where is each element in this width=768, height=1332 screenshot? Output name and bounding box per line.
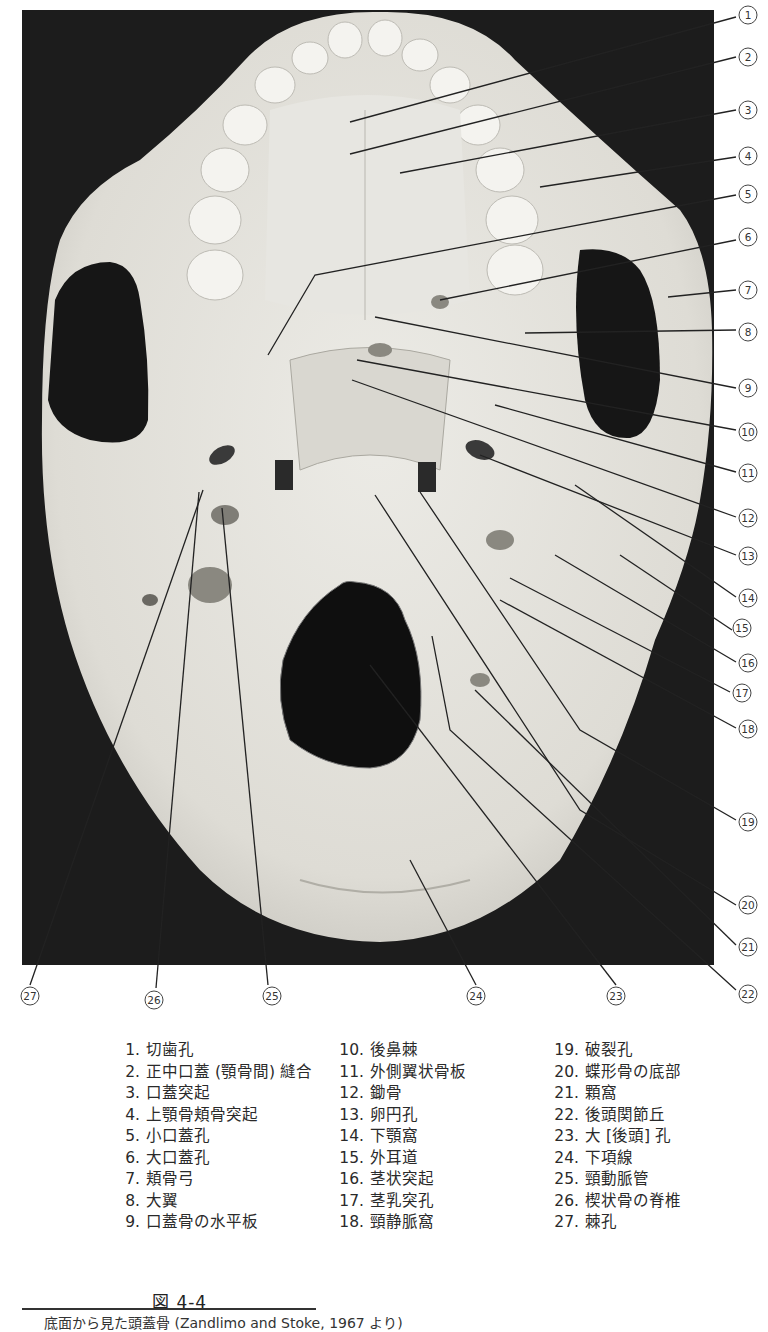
callout-numbers: 1 2 3 4 5 6 7 8 9 10 11 12 13 14 15 16 1… bbox=[0, 0, 768, 1010]
svg-text:11: 11 bbox=[741, 467, 754, 479]
legend-item: 15.外耳道 bbox=[328, 1148, 466, 1170]
svg-text:13: 13 bbox=[741, 550, 754, 562]
svg-text:20: 20 bbox=[741, 899, 754, 911]
legend-column-2: 10.後鼻棘 11.外側翼状骨板 12.鋤骨 13.卵円孔 14.下顎窩 15.… bbox=[328, 1040, 466, 1234]
legend-item: 10.後鼻棘 bbox=[328, 1040, 466, 1062]
svg-text:18: 18 bbox=[741, 723, 754, 735]
svg-text:3: 3 bbox=[745, 104, 752, 116]
callout-12: 12 bbox=[739, 509, 757, 527]
svg-text:23: 23 bbox=[609, 990, 622, 1002]
divider bbox=[22, 1308, 316, 1310]
callout-7: 7 bbox=[739, 281, 757, 299]
legend-item: 14.下顎窩 bbox=[328, 1126, 466, 1148]
svg-text:27: 27 bbox=[23, 990, 36, 1002]
legend-item: 19.破裂孔 bbox=[553, 1040, 681, 1062]
legend-item: 8.大翼 bbox=[118, 1191, 312, 1213]
legend-item: 16.茎状突起 bbox=[328, 1169, 466, 1191]
svg-text:19: 19 bbox=[741, 816, 754, 828]
legend-item: 23.大 [後頭] 孔 bbox=[553, 1126, 681, 1148]
svg-text:12: 12 bbox=[741, 512, 754, 524]
callout-4: 4 bbox=[739, 147, 757, 165]
legend-item: 9.口蓋骨の水平板 bbox=[118, 1212, 312, 1234]
callout-6: 6 bbox=[739, 228, 757, 246]
callout-22: 22 bbox=[739, 985, 757, 1003]
svg-text:16: 16 bbox=[741, 657, 755, 669]
legend-item: 18.頸静脈窩 bbox=[328, 1212, 466, 1234]
legend-item: 24.下項線 bbox=[553, 1148, 681, 1170]
callout-markers: 1 2 3 4 5 6 7 8 9 10 11 12 13 14 15 16 1… bbox=[21, 6, 757, 1009]
callout-5: 5 bbox=[739, 185, 757, 203]
svg-text:24: 24 bbox=[469, 990, 483, 1002]
legend-item: 3.口蓋突起 bbox=[118, 1083, 312, 1105]
svg-text:5: 5 bbox=[745, 188, 752, 200]
callout-11: 11 bbox=[739, 464, 757, 482]
legend-item: 7.頬骨弓 bbox=[118, 1169, 312, 1191]
svg-text:7: 7 bbox=[745, 284, 752, 296]
legend-item: 11.外側翼状骨板 bbox=[328, 1062, 466, 1084]
legend-item: 1.切歯孔 bbox=[118, 1040, 312, 1062]
legend-item: 17.茎乳突孔 bbox=[328, 1191, 466, 1213]
svg-text:14: 14 bbox=[741, 592, 755, 604]
callout-24: 24 bbox=[467, 987, 485, 1005]
legend-item: 25.頸動脈管 bbox=[553, 1169, 681, 1191]
legend-item: 26.楔状骨の脊椎 bbox=[553, 1191, 681, 1213]
callout-23: 23 bbox=[607, 987, 625, 1005]
callout-8: 8 bbox=[739, 323, 757, 341]
callout-18: 18 bbox=[739, 720, 757, 738]
svg-text:26: 26 bbox=[147, 994, 161, 1006]
legend-item: 2.正中口蓋 (顎骨間) 縫合 bbox=[118, 1062, 312, 1084]
callout-27: 27 bbox=[21, 987, 39, 1005]
callout-14: 14 bbox=[739, 589, 757, 607]
legend-item: 27.棘孔 bbox=[553, 1212, 681, 1234]
legend-column-3: 19.破裂孔 20.蝶形骨の底部 21.顆窩 22.後頭関節丘 23.大 [後頭… bbox=[553, 1040, 681, 1234]
callout-21: 21 bbox=[739, 938, 757, 956]
svg-text:9: 9 bbox=[745, 382, 752, 394]
callout-13: 13 bbox=[739, 547, 757, 565]
callout-10: 10 bbox=[739, 423, 757, 441]
svg-text:17: 17 bbox=[735, 687, 748, 699]
skull-figure: 1 2 3 4 5 6 7 8 9 10 11 12 13 14 15 16 1… bbox=[0, 0, 768, 1010]
svg-text:15: 15 bbox=[735, 622, 748, 634]
svg-text:1: 1 bbox=[745, 9, 752, 21]
callout-2: 2 bbox=[739, 48, 757, 66]
legend-item: 20.蝶形骨の底部 bbox=[553, 1062, 681, 1084]
svg-text:6: 6 bbox=[745, 231, 752, 243]
callout-20: 20 bbox=[739, 896, 757, 914]
callout-26: 26 bbox=[145, 991, 163, 1009]
svg-text:8: 8 bbox=[745, 326, 752, 338]
callout-16: 16 bbox=[739, 654, 757, 672]
callout-15: 15 bbox=[733, 619, 751, 637]
legend-item: 12.鋤骨 bbox=[328, 1083, 466, 1105]
figure-caption: 底面から見た頭蓋骨 (Zandlimo and Stoke, 1967 より) bbox=[44, 1312, 403, 1332]
callout-3: 3 bbox=[739, 101, 757, 119]
legend-column-1: 1.切歯孔 2.正中口蓋 (顎骨間) 縫合 3.口蓋突起 4.上顎骨頬骨突起 5… bbox=[118, 1040, 312, 1234]
callout-25: 25 bbox=[263, 987, 281, 1005]
legend-item: 4.上顎骨頬骨突起 bbox=[118, 1105, 312, 1127]
legend-item: 22.後頭関節丘 bbox=[553, 1105, 681, 1127]
svg-text:22: 22 bbox=[741, 988, 754, 1000]
legend-item: 13.卵円孔 bbox=[328, 1105, 466, 1127]
svg-text:4: 4 bbox=[745, 150, 752, 162]
svg-text:10: 10 bbox=[741, 426, 754, 438]
legend-item: 6.大口蓋孔 bbox=[118, 1148, 312, 1170]
callout-19: 19 bbox=[739, 813, 757, 831]
legend-item: 21.顆窩 bbox=[553, 1083, 681, 1105]
svg-text:2: 2 bbox=[745, 51, 752, 63]
legend-item: 5.小口蓋孔 bbox=[118, 1126, 312, 1148]
callout-1: 1 bbox=[739, 6, 757, 24]
svg-text:25: 25 bbox=[265, 990, 278, 1002]
callout-9: 9 bbox=[739, 379, 757, 397]
svg-text:21: 21 bbox=[741, 941, 754, 953]
callout-17: 17 bbox=[733, 684, 751, 702]
